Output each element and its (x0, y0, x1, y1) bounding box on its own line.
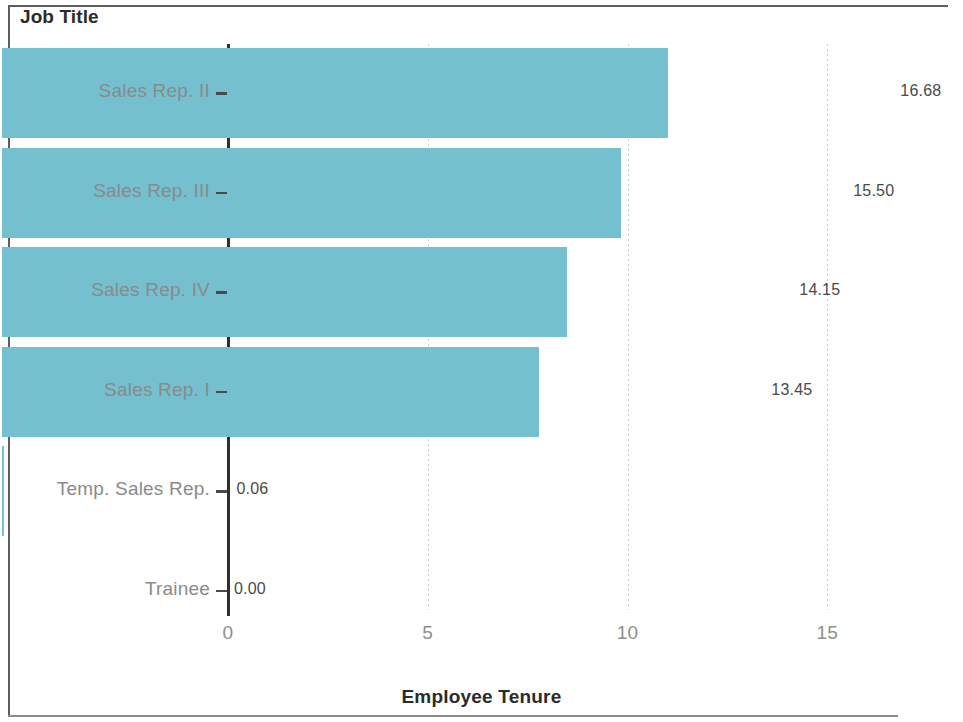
bar-value-label: 16.68 (900, 82, 941, 100)
bar-value-label: 14.15 (799, 281, 840, 299)
y-axis-tick (216, 590, 227, 593)
y-axis-category-label: Sales Rep. II (0, 80, 210, 102)
bar-value-label: 13.45 (771, 381, 812, 399)
y-axis-tick (216, 92, 227, 95)
bar-value-label: 0.00 (234, 580, 266, 598)
x-axis-tick-label-15: 15 (816, 622, 838, 644)
page-frame-bottom-rule (8, 715, 898, 717)
x-axis-tick-label-0: 0 (223, 622, 234, 644)
y-axis-category-label: Sales Rep. IV (0, 279, 210, 301)
chart-title: Job Title (20, 6, 99, 28)
y-axis-category-label: Trainee (0, 578, 210, 600)
y-axis-tick (216, 192, 227, 195)
page-frame-top-rule (8, 5, 948, 7)
x-axis-tick-0 (227, 604, 230, 616)
y-axis-tick (216, 391, 227, 394)
bar-value-label: 0.06 (236, 480, 268, 498)
y-axis-tick (216, 490, 227, 493)
chart-page: Job Title 16.68Sales Rep. II15.50Sales R… (0, 0, 963, 722)
y-axis-category-label: Temp. Sales Rep. (0, 478, 210, 500)
bar-value-label: 15.50 (853, 182, 894, 200)
y-axis-tick (216, 291, 227, 294)
y-axis-category-label: Sales Rep. I (0, 379, 210, 401)
y-axis-category-label: Sales Rep. III (0, 180, 210, 202)
gridline-x-15 (827, 44, 828, 610)
x-axis-tick-label-5: 5 (422, 622, 433, 644)
x-axis-title: Employee Tenure (0, 686, 963, 708)
x-axis-tick-label-10: 10 (617, 622, 639, 644)
